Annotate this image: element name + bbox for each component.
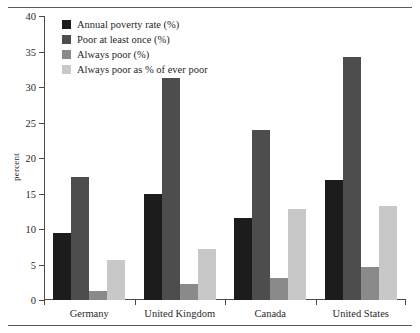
y-axis-tick-label: 30: [26, 82, 37, 93]
y-axis-tick-label: 20: [26, 153, 37, 164]
y-axis-tick-label: 10: [26, 224, 37, 235]
y-axis-tick-label: 25: [26, 117, 37, 128]
legend-item[interactable]: Always poor as % of ever poor: [62, 63, 208, 76]
legend-swatch-icon: [62, 35, 71, 44]
bar: [325, 180, 343, 300]
y-axis-tick: [39, 87, 44, 88]
y-axis-tick: [39, 229, 44, 230]
x-axis-tick: [316, 300, 317, 305]
bar-group: [325, 16, 397, 300]
y-axis-tick: [39, 194, 44, 195]
bar: [288, 209, 306, 300]
legend-swatch-icon: [62, 50, 71, 59]
bar: [270, 278, 288, 300]
chart-legend: Annual poverty rate (%)Poor at least onc…: [62, 18, 208, 76]
bar: [343, 57, 361, 300]
top-divider-rule: [8, 7, 412, 8]
y-axis-line: [44, 16, 45, 300]
bar: [252, 130, 270, 300]
legend-item[interactable]: Annual poverty rate (%): [62, 18, 208, 31]
bar: [198, 249, 216, 300]
bar: [89, 291, 107, 300]
bar: [162, 78, 180, 300]
x-axis-category-label: United Kingdom: [144, 308, 215, 319]
bar: [234, 218, 252, 300]
x-axis-category-label: United States: [333, 308, 389, 319]
y-axis-tick: [39, 16, 44, 17]
y-axis-tick: [39, 265, 44, 266]
bar: [53, 233, 71, 300]
y-axis-tick-label: 40: [26, 11, 37, 22]
legend-swatch-icon: [62, 20, 71, 29]
bar-group: [234, 16, 306, 300]
legend-item-label: Poor at least once (%): [77, 34, 170, 45]
grouped-bar-chart: percent 0510152025303540GermanyUnited Ki…: [0, 12, 420, 322]
legend-item-label: Always poor as % of ever poor: [77, 64, 208, 75]
y-axis-tick: [39, 158, 44, 159]
bar: [144, 194, 162, 301]
y-axis-title: percent: [11, 127, 21, 207]
x-axis-tick: [44, 300, 45, 305]
legend-item[interactable]: Poor at least once (%): [62, 33, 208, 46]
y-axis-tick: [39, 52, 44, 53]
legend-item-label: Always poor (%): [77, 49, 149, 60]
y-axis-tick: [39, 123, 44, 124]
y-axis-tick-label: 35: [26, 46, 37, 57]
bar: [71, 177, 89, 300]
x-axis-category-label: Canada: [255, 308, 287, 319]
legend-item[interactable]: Always poor (%): [62, 48, 208, 61]
y-axis-tick-label: 0: [31, 295, 36, 306]
x-axis-tick: [135, 300, 136, 305]
bottom-divider-rule: [8, 325, 412, 326]
bar: [379, 206, 397, 300]
y-axis-tick-label: 5: [31, 259, 36, 270]
x-axis-category-label: Germany: [70, 308, 109, 319]
x-axis-tick: [225, 300, 226, 305]
y-axis-tick-label: 15: [26, 188, 37, 199]
x-axis-tick: [405, 300, 406, 305]
legend-item-label: Annual poverty rate (%): [77, 19, 179, 30]
bar: [107, 260, 125, 300]
legend-swatch-icon: [62, 65, 71, 74]
bar: [361, 267, 379, 300]
bar: [180, 284, 198, 300]
